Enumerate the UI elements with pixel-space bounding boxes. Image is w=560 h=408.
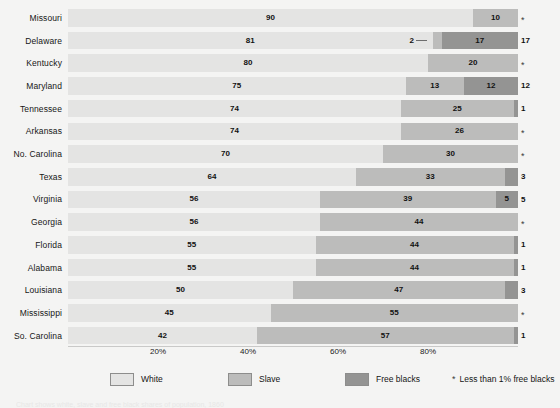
bar-row: Texas643333 [0,165,560,188]
row-label-maryland: Maryland [0,75,62,98]
row-label-virginia: Virginia [0,188,62,211]
legend-label-slave: Slave [259,374,280,384]
segment-slave: 47 [293,281,505,299]
footnote-text: Less than 1% free blacks [460,374,555,384]
stacked-bar: 55441 [68,236,518,254]
row-label-mississippi: Mississippi [0,302,62,325]
legend-swatch-free [345,373,369,386]
legend-item-white[interactable]: White [110,373,163,386]
segment-slave: 25 [401,100,514,118]
segment-value: 70 [221,150,230,158]
axis-tick-60: 60% [330,347,346,356]
segment-free: 3 [505,168,519,186]
free-black-value: 3 [521,281,547,299]
segment-free: 12 [464,77,518,95]
segment-value: 57 [381,332,390,340]
stacked-bar: 751312 [68,77,518,95]
segment-white: 74 [68,123,401,141]
stacked-bar: 81217 [68,32,518,50]
stacked-bar: 9010 [68,9,518,27]
segment-slave: 20 [428,54,518,72]
segment-value: 75 [232,82,241,90]
free-black-value: 5 [521,191,547,209]
segment-free: 1 [514,259,519,277]
segment-value: 74 [230,127,239,135]
stacked-bar: 74251 [68,100,518,118]
segment-white: 56 [68,213,320,231]
segment-value: 5 [505,195,509,203]
bar-row: Mississippi4555* [0,302,560,325]
segment-free: 5 [496,191,519,209]
bar-row: Missouri9010* [0,7,560,30]
segment-value: 74 [230,105,239,113]
axis-tick-20: 20% [150,347,166,356]
legend-item-free[interactable]: Free blacks [345,373,420,386]
bar-row: So. Carolina425711 [0,324,560,347]
bar-row: Tennessee742511 [0,97,560,120]
plot-area: Missouri9010*Delaware81217172Kentucky802… [0,0,560,352]
free-black-asterisk: * [521,54,547,74]
segment-value: 50 [176,286,185,294]
bar-row: Alabama554411 [0,256,560,279]
segment-white: 55 [68,236,316,254]
segment-value: 26 [455,127,464,135]
segment-slave: 55 [271,304,519,322]
stacked-bar: 50473 [68,281,518,299]
stacked-bar: 42571 [68,327,518,345]
row-label-no-carolina: No. Carolina [0,143,62,166]
row-label-louisiana: Louisiana [0,279,62,302]
legend-swatch-white [110,373,134,386]
stacked-bar: 7030 [68,145,518,163]
chart-legend: WhiteSlaveFree blacks*Less than 1% free … [0,368,560,390]
segment-slave: 57 [257,327,514,345]
stacked-bar: 5644 [68,213,518,231]
segment-value: 55 [187,264,196,272]
segment-value: 55 [390,309,399,317]
row-label-so-carolina: So. Carolina [0,324,62,347]
segment-free: 3 [505,281,519,299]
bar-row: Kentucky8020* [0,52,560,75]
legend-item-slave[interactable]: Slave [228,373,280,386]
free-black-asterisk: * [521,123,547,143]
row-label-texas: Texas [0,165,62,188]
segment-value: 10 [491,14,500,22]
segment-value: 30 [446,150,455,158]
stacked-bar: 55441 [68,259,518,277]
segment-white: 55 [68,259,316,277]
segment-value: 17 [475,37,484,45]
segment-slave: 44 [320,213,518,231]
segment-white: 42 [68,327,257,345]
stacked-bar: 4555 [68,304,518,322]
cut-off-caption: Chart shows white, slave and free black … [16,401,346,408]
segment-free: 1 [514,100,519,118]
segment-value: 25 [453,105,462,113]
free-black-value: 1 [521,259,547,277]
segment-white: 75 [68,77,406,95]
legend-label-free: Free blacks [376,374,420,384]
row-label-alabama: Alabama [0,256,62,279]
legend-label-white: White [141,374,163,384]
bar-row: Florida554411 [0,234,560,257]
stacked-bar: 56395 [68,191,518,209]
segment-white: 50 [68,281,293,299]
segment-slave: 2 [433,32,442,50]
segment-value: 56 [190,218,199,226]
segment-value: 39 [403,195,412,203]
row-label-georgia: Georgia [0,211,62,234]
bar-row: Delaware81217172 [0,29,560,52]
stacked-bar: 8020 [68,54,518,72]
segment-value: 33 [426,173,435,181]
row-label-tennessee: Tennessee [0,97,62,120]
row-label-arkansas: Arkansas [0,120,62,143]
free-black-value: 17 [521,32,547,50]
segment-white: 64 [68,168,356,186]
free-black-value: 1 [521,236,547,254]
axis-tick-80: 80% [420,347,436,356]
segment-slave: 44 [316,259,514,277]
segment-white: 45 [68,304,271,322]
segment-value: 13 [430,82,439,90]
bar-row: Georgia5644* [0,211,560,234]
free-black-asterisk: * [521,9,547,29]
segment-value: 45 [165,309,174,317]
bar-row: No. Carolina7030* [0,143,560,166]
